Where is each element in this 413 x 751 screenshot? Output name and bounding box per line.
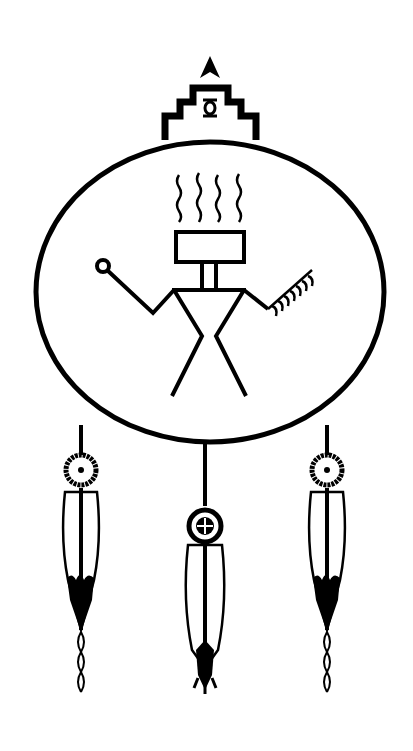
- shield-drawing: [0, 0, 413, 751]
- rattle-icon: [97, 260, 109, 272]
